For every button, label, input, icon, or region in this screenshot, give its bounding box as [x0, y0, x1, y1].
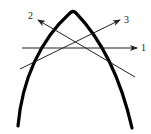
ray-3	[20, 20, 120, 69]
arch-diagram: 1 2 3	[0, 0, 151, 134]
ray-2-label: 2	[28, 10, 33, 21]
arch-curve	[18, 12, 132, 129]
ray-1-label: 1	[141, 42, 146, 53]
ray-3-label: 3	[124, 14, 129, 25]
